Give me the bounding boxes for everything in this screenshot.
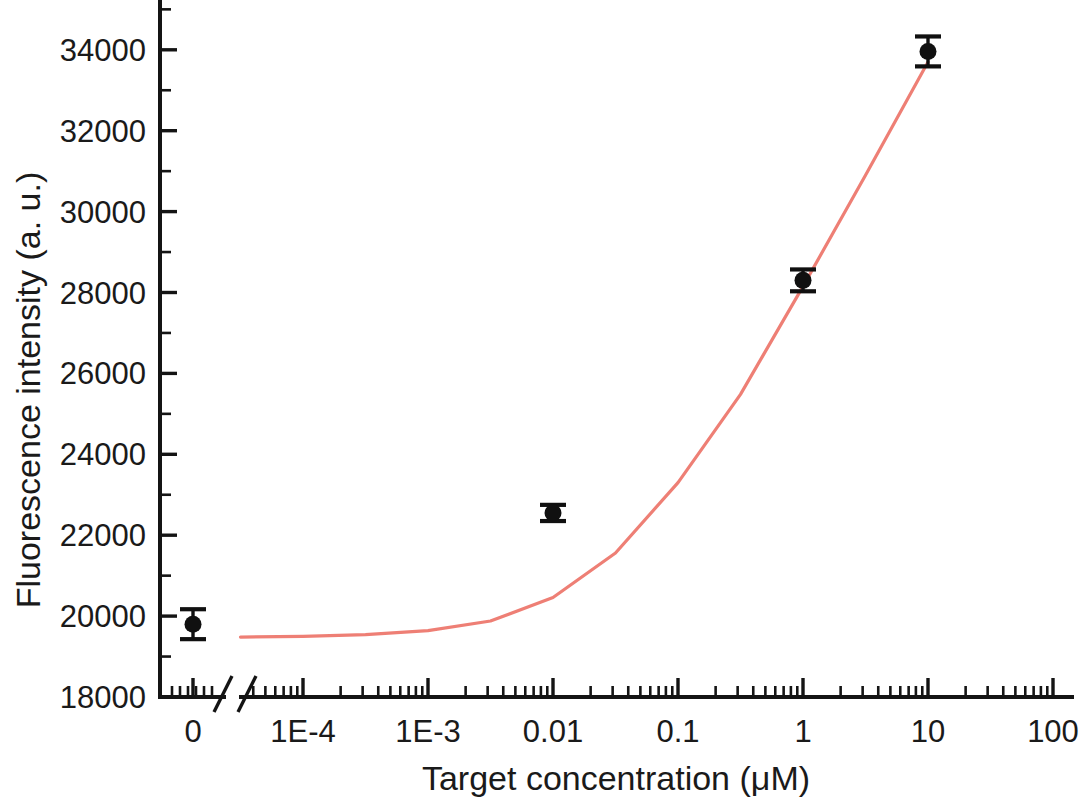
x-axis-break-symbol [214, 676, 256, 712]
x-tick-label: 1 [794, 714, 811, 749]
y-axis-title: Fluorescence intensity (a. u.) [9, 172, 47, 609]
data-point [180, 609, 206, 639]
figure-container: 1800020000220002400026000280003000032000… [0, 0, 1084, 804]
y-tick-label: 22000 [60, 518, 146, 553]
y-axis-ticks [160, 9, 177, 697]
data-point [915, 36, 941, 66]
data-point-marker [545, 504, 562, 521]
fitted-curve [241, 62, 929, 637]
x-tick-label: 1E-4 [270, 714, 335, 749]
y-axis-tick-labels: 1800020000220002400026000280003000032000… [60, 33, 146, 715]
y-tick-label: 26000 [60, 356, 146, 391]
axis-lines [160, 0, 1072, 697]
x-tick-label: 0 [184, 714, 201, 749]
data-point-marker [185, 616, 202, 633]
x-tick-label: 10 [911, 714, 945, 749]
x-axis-tick-labels: 01E-41E-30.010.1110100 [184, 714, 1078, 749]
data-point [540, 504, 566, 521]
x-axis-title: Target concentration (μM) [422, 759, 810, 797]
y-tick-label: 20000 [60, 599, 146, 634]
y-tick-label: 24000 [60, 437, 146, 472]
x-axis-ticks [172, 678, 1053, 697]
data-point-marker [920, 43, 937, 60]
fluorescence-calibration-chart: 1800020000220002400026000280003000032000… [0, 0, 1084, 804]
x-tick-label: 0.1 [656, 714, 699, 749]
y-tick-label: 28000 [60, 276, 146, 311]
x-tick-label: 1E-3 [395, 714, 460, 749]
data-point-marker [795, 272, 812, 289]
y-tick-label: 18000 [60, 680, 146, 715]
break-slash-left [214, 676, 232, 712]
y-tick-label: 34000 [60, 33, 146, 68]
data-point-series [180, 36, 941, 639]
x-tick-label: 0.01 [523, 714, 583, 749]
y-tick-label: 32000 [60, 114, 146, 149]
y-tick-label: 30000 [60, 195, 146, 230]
x-tick-label: 100 [1027, 714, 1079, 749]
